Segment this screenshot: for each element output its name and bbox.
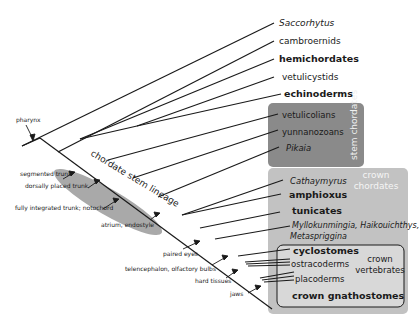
char-pharynx: pharynx bbox=[16, 116, 41, 124]
taxon-yunnanozoans: yunnanozoans bbox=[282, 127, 344, 137]
taxon-crown-gnathostomes: crown gnathostomes bbox=[292, 290, 405, 301]
taxon-pikaia: Pikaia bbox=[286, 143, 311, 153]
stem-chordates-label: stem chordates bbox=[349, 90, 359, 160]
taxon-tunicates: tunicates bbox=[292, 205, 342, 216]
char-atrium-endostyle: atrium, endostyle bbox=[101, 221, 154, 229]
char-segmented-trunk: segmented trunk bbox=[20, 170, 72, 178]
crown-chordates-label-1: crown bbox=[362, 170, 389, 180]
taxon-cathaymyrus: Cathaymyrus bbox=[290, 176, 347, 186]
char-dorsally-placed-trunk: dorsally placed trunk bbox=[25, 182, 89, 190]
char-jaws: jaws bbox=[229, 290, 243, 298]
taxon-echinoderms: echinoderms bbox=[284, 88, 353, 99]
taxon-metaspriggina: Metaspriggina bbox=[290, 232, 347, 241]
taxon-cambroernids: cambroernids bbox=[279, 36, 341, 46]
taxon-cyclostomes: cyclostomes bbox=[293, 245, 359, 256]
crown-chordates-label-2: chordates bbox=[354, 181, 399, 191]
crown-vertebrates-label-1: crown bbox=[367, 254, 393, 264]
char-hard-tissues: hard tissues bbox=[195, 277, 231, 284]
taxon-placoderms: placoderms bbox=[295, 274, 345, 284]
taxon-vetulicystids: vetulicystids bbox=[282, 72, 339, 82]
taxon-vetulicolians: vetulicolians bbox=[282, 110, 336, 120]
taxon-amphioxus: amphioxus bbox=[289, 189, 348, 200]
taxon-hemichordates: hemichordates bbox=[279, 53, 359, 64]
taxon-saccorhytus: Saccorhytus bbox=[279, 18, 335, 28]
taxon-myllokunmingia: Myllokunmingia, Haikouichthys, bbox=[292, 221, 419, 230]
char-telencephalon: telencephalon, olfactory bulbs bbox=[125, 265, 216, 273]
cladogram: stem chordates crown chordates crown ver… bbox=[0, 0, 419, 323]
crown-vertebrates-label-2: vertebrates bbox=[355, 265, 405, 275]
char-notochord: fully integrated trunk; notochord bbox=[15, 204, 113, 212]
char-paired-eyes: paired eyes bbox=[163, 250, 198, 258]
taxon-ostracoderms: ostracoderms bbox=[291, 259, 350, 269]
